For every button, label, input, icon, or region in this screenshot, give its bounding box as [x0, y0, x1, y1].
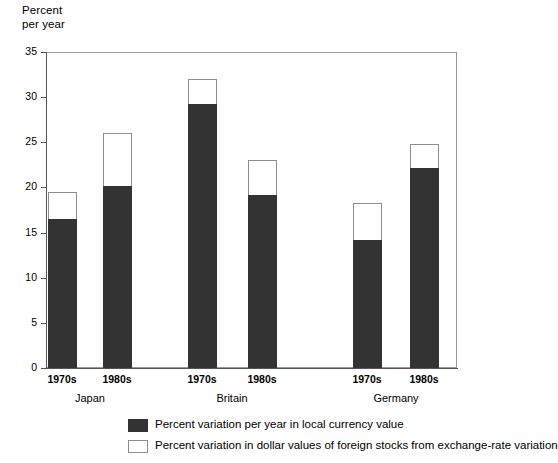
x-axis-group-label-britain: Britain [172, 392, 292, 404]
legend: Percent variation per year in local curr… [0, 415, 480, 457]
x-axis-group-label-japan: Japan [30, 392, 150, 404]
legend-swatch-hollow [128, 440, 148, 453]
bar-japan-1970s [48, 192, 77, 368]
bar-japan-1980s [103, 133, 132, 368]
x-axis-group-label-germany: Germany [336, 392, 456, 404]
y-tick-mark [41, 368, 46, 369]
y-tick-label: 20 [25, 180, 37, 192]
x-axis-label: 1980s [389, 373, 459, 385]
y-tick-label: 30 [25, 90, 37, 102]
y-tick-mark [41, 187, 46, 188]
x-axis-label: 1980s [227, 373, 297, 385]
bar-segment-local-currency [248, 195, 277, 368]
bar-segment-local-currency [188, 104, 217, 368]
y-tick-mark [41, 142, 46, 143]
bar-segment-local-currency [410, 168, 439, 368]
legend-item-exchange-rate: Percent variation in dollar values of fo… [0, 436, 480, 457]
bar-segment-local-currency [48, 219, 77, 368]
bar-germany-1980s [410, 144, 439, 368]
bar-germany-1970s [353, 203, 382, 368]
y-tick-mark [41, 323, 46, 324]
bar-britain-1970s [188, 79, 217, 368]
y-tick-mark [41, 97, 46, 98]
y-tick-label: 15 [25, 226, 37, 238]
legend-item-local-currency: Percent variation per year in local curr… [0, 415, 480, 436]
y-tick-label: 35 [25, 45, 37, 57]
x-axis-label: 1980s [82, 373, 152, 385]
bar-segment-local-currency [103, 186, 132, 368]
legend-swatch-filled [128, 419, 148, 432]
y-tick-mark [41, 233, 46, 234]
legend-label-exchange-rate: Percent variation in dollar values of fo… [155, 439, 558, 451]
bar-britain-1980s [248, 160, 277, 368]
y-tick-label: 5 [31, 316, 37, 328]
y-axis-title: Percent per year [22, 4, 65, 31]
legend-label-local-currency: Percent variation per year in local curr… [155, 418, 404, 430]
y-tick-label: 10 [25, 271, 37, 283]
y-tick-mark [41, 278, 46, 279]
y-tick-mark [41, 52, 46, 53]
x-axis-line [46, 368, 458, 369]
y-tick-label: 25 [25, 135, 37, 147]
y-tick-label: 0 [31, 361, 37, 373]
bar-segment-local-currency [353, 240, 382, 368]
